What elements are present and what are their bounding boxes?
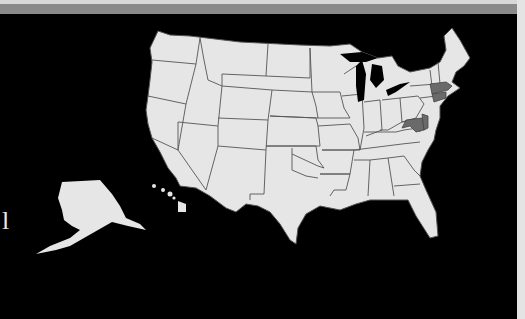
side-label-fragment: l <box>2 208 9 234</box>
contiguous-us <box>146 28 470 244</box>
us-map <box>0 0 525 319</box>
hawaii <box>152 184 186 212</box>
alaska <box>36 180 146 254</box>
